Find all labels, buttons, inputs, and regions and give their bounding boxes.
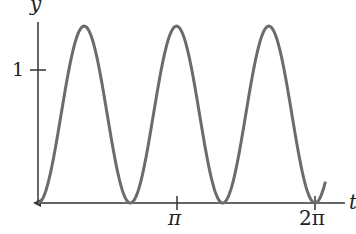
plot-area — [0, 0, 356, 234]
chart: y 1 π 2π t — [0, 0, 356, 234]
data-curve — [38, 26, 325, 203]
x-tick-label-pi: π — [168, 206, 181, 230]
y-tick-label-1: 1 — [12, 58, 24, 80]
x-tick-label-2pi: 2π — [299, 206, 325, 230]
y-axis-label: y — [30, 0, 41, 16]
x-axis-label: t — [349, 190, 356, 214]
